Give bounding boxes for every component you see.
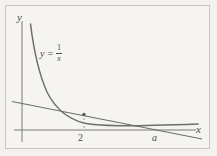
- x-axis-label: x: [196, 124, 201, 135]
- equation-lhs: y: [40, 49, 44, 59]
- fraction-numerator: 1: [56, 44, 62, 52]
- y-axis-label: y: [17, 12, 22, 23]
- equation-fraction: 1 x: [56, 44, 62, 63]
- fraction-denominator: x: [56, 55, 62, 63]
- curve-equation-label: y = 1 x: [40, 44, 62, 63]
- tangent-line: [12, 102, 202, 140]
- x-tick-label-a: a: [152, 133, 157, 143]
- tangent-point-marker: [82, 113, 85, 116]
- x-tick-label-2: 2: [78, 133, 83, 143]
- figure-container: y x 2 a y = 1 x: [0, 0, 217, 156]
- equation-equals-sign: =: [47, 49, 53, 59]
- plot-canvas: [0, 0, 217, 156]
